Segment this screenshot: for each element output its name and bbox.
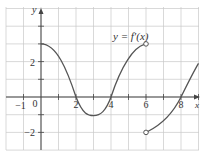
open-point-6-3 — [144, 42, 149, 47]
y-tick-label: −2 — [24, 127, 35, 138]
open-point-6-neg2 — [144, 130, 149, 135]
x-tick-label: 6 — [144, 99, 149, 110]
x-tick-label: −1 — [15, 100, 26, 111]
x-tick-label: 2 — [74, 99, 79, 110]
x-tick-label: 4 — [109, 99, 114, 110]
x-tick-label: 8 — [179, 99, 184, 110]
chart-svg: −1024682−2 y = f′(x) y x — [0, 0, 204, 155]
y-axis-label: y — [31, 4, 37, 15]
derivative-graph: −1024682−2 y = f′(x) y x — [0, 0, 204, 155]
y-tick-label: 2 — [30, 57, 35, 68]
function-label: y = f′(x) — [112, 30, 149, 43]
x-tick-label: 0 — [33, 98, 38, 109]
x-axis-label: x — [194, 100, 199, 110]
curves — [41, 42, 199, 135]
